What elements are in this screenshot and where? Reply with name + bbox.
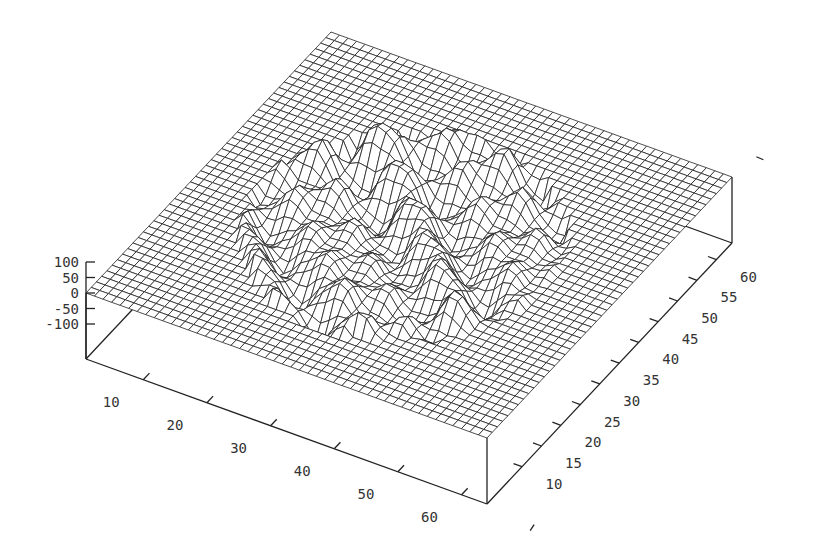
y-tick-label: 25: [604, 414, 621, 430]
y-tick: [514, 464, 522, 467]
x-tick-label: 20: [167, 417, 184, 433]
z-axis: 100500-50-100: [45, 254, 95, 359]
x-tick-label: 40: [294, 463, 311, 479]
y-tick-label: 15: [565, 455, 582, 471]
y-tick: [552, 422, 560, 425]
y-tick-label: 40: [662, 351, 679, 367]
z-tick-label: -50: [54, 301, 79, 317]
y-tick: [630, 339, 638, 342]
z-tick-label: -100: [45, 316, 79, 332]
surface-mesh: [86, 32, 732, 438]
x-tick: [271, 419, 277, 426]
y-tick: [611, 360, 619, 363]
x-tick-label: 50: [357, 486, 374, 502]
y-tick-label: 50: [701, 310, 718, 326]
x-tick: [334, 442, 340, 449]
surface-plot: 100500-50-100 102030405060 1015202530354…: [0, 0, 825, 554]
outer-tick: [756, 157, 763, 160]
y-tick: [650, 319, 658, 322]
y-tick: [572, 402, 580, 405]
y-tick-label: 30: [623, 393, 640, 409]
outer-tick: [530, 525, 534, 531]
x-tick: [398, 465, 404, 472]
y-tick: [669, 298, 677, 301]
x-tick: [143, 373, 149, 380]
y-tick: [689, 277, 697, 280]
x-tick-label: 30: [230, 440, 247, 456]
y-tick: [708, 257, 716, 260]
y-tick-label: 55: [721, 289, 738, 305]
z-tick-label: 100: [54, 254, 79, 270]
x-tick: [207, 396, 213, 403]
y-tick: [591, 381, 599, 384]
y-tick-label: 20: [584, 434, 601, 450]
y-tick-label: 60: [740, 269, 757, 285]
y-tick-label: 45: [682, 331, 699, 347]
y-tick-label: 10: [546, 476, 563, 492]
x-tick-label: 10: [103, 394, 120, 410]
z-tick-label: 0: [71, 285, 79, 301]
x-tick: [462, 488, 468, 495]
y-tick: [533, 443, 541, 446]
x-tick-label: 60: [421, 509, 438, 525]
y-tick-label: 35: [643, 372, 660, 388]
z-tick-label: 50: [62, 270, 79, 286]
